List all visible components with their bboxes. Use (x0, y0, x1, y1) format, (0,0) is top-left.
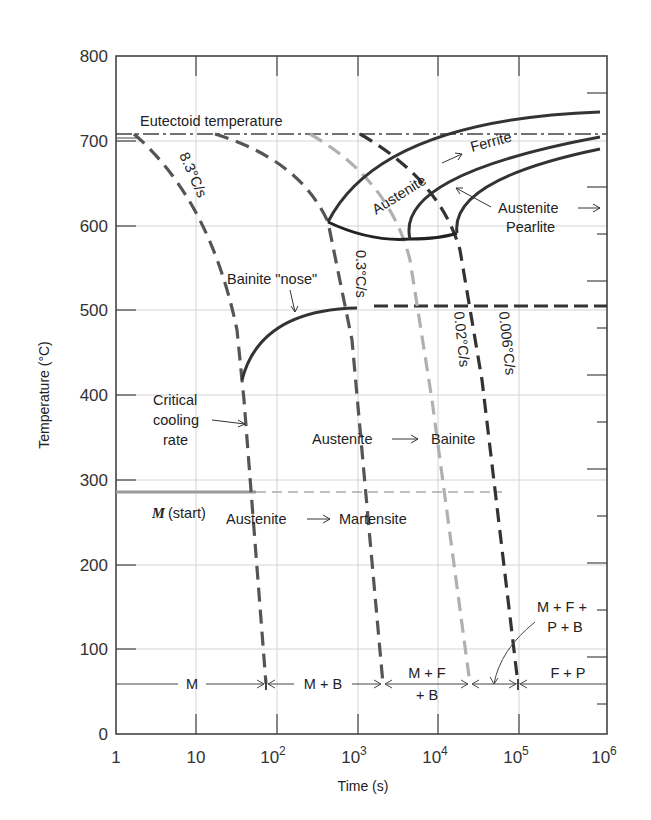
arrow-icon (307, 515, 330, 523)
label-austenite-ferrite: Austenite Ferrite (369, 129, 513, 218)
svg-text:0: 0 (99, 725, 108, 744)
svg-text:102: 102 (260, 744, 286, 767)
svg-text:+ B: + B (416, 687, 438, 703)
svg-text:Austenite: Austenite (312, 431, 372, 447)
cooling-curve-0.006 (360, 134, 518, 684)
label-rate-0.02: 0.02°C/s (451, 311, 473, 368)
svg-text:M + B: M + B (304, 676, 342, 692)
x-tick-labels: 1 10 102 103 104 105 106 (111, 744, 617, 767)
label-rate-0.006: 0.006°C/s (496, 311, 519, 376)
arrow-icon (392, 435, 418, 443)
y-axis-ticks (116, 141, 136, 649)
svg-text:M: M (151, 505, 166, 521)
svg-text:P + B: P + B (547, 619, 583, 635)
svg-text:106: 106 (591, 744, 617, 767)
svg-text:104: 104 (422, 744, 448, 767)
svg-text:Bainite: Bainite (431, 431, 475, 447)
arrow-icon (578, 204, 600, 212)
svg-text:300: 300 (80, 471, 108, 490)
svg-text:1: 1 (111, 748, 120, 767)
arrow-icon (212, 420, 245, 427)
y-tick-labels: 0 100 200 300 400 500 600 700 800 (80, 47, 108, 744)
svg-text:M + F: M + F (408, 665, 446, 681)
svg-text:Martensite: Martensite (339, 511, 407, 527)
svg-text:400: 400 (80, 386, 108, 405)
label-critical-cooling-rate: Critical cooling rate (153, 392, 245, 448)
right-secondary-ticks (587, 93, 607, 704)
svg-text:Ferrite: Ferrite (469, 129, 514, 155)
svg-text:M: M (186, 676, 198, 692)
svg-text:F + P: F + P (550, 665, 585, 681)
svg-text:(start): (start) (168, 505, 206, 521)
svg-text:M + F +: M + F + (537, 599, 587, 615)
svg-text:200: 200 (80, 556, 108, 575)
svg-text:600: 600 (80, 217, 108, 236)
bainite-nose-curve (242, 308, 357, 380)
arrow-icon (442, 153, 462, 163)
svg-text:Austenite: Austenite (498, 200, 558, 216)
svg-text:10: 10 (187, 748, 206, 767)
svg-text:Critical: Critical (153, 392, 197, 408)
label-austenite-bainite: Austenite Bainite (312, 431, 475, 447)
pointer-arrow-icon (456, 188, 491, 207)
svg-text:Bainite "nose": Bainite "nose" (227, 271, 317, 287)
cct-chart: 0 100 200 300 400 500 600 700 800 1 10 1… (0, 0, 651, 820)
label-m-start: M (start) (151, 505, 206, 521)
pointer-arrow-icon (290, 290, 298, 312)
svg-text:700: 700 (80, 132, 108, 151)
label-rate-0.3: 0.3°C/s (353, 250, 369, 298)
cooling-curve-8.3 (134, 134, 266, 684)
label-rate-8.3: 8.3°C/s (176, 150, 210, 200)
svg-text:800: 800 (80, 47, 108, 66)
svg-text:Austenite: Austenite (226, 511, 286, 527)
svg-text:500: 500 (80, 301, 108, 320)
svg-text:Pearlite: Pearlite (506, 219, 555, 235)
svg-text:rate: rate (163, 432, 188, 448)
svg-text:100: 100 (80, 640, 108, 659)
y-axis-title: Temperature (°C) (36, 341, 52, 449)
x-axis-title: Time (s) (338, 778, 389, 794)
eutectoid-label: Eutectoid temperature (140, 113, 283, 129)
label-bainite-nose: Bainite "nose" (227, 271, 317, 312)
svg-text:cooling: cooling (153, 412, 199, 428)
svg-text:105: 105 (503, 744, 529, 767)
svg-text:103: 103 (341, 744, 367, 767)
label-austenite-martensite: Austenite Martensite (226, 511, 407, 527)
